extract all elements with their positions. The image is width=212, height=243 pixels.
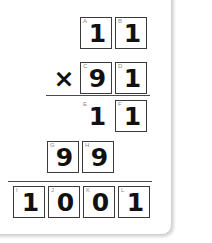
digit-cell-c[interactable]: C 9 bbox=[80, 62, 112, 94]
digit-cell-l[interactable]: L 1 bbox=[118, 186, 150, 218]
digit-cell-b[interactable]: B 1 bbox=[115, 17, 147, 49]
digit-cell-i[interactable]: I 1 bbox=[13, 186, 45, 218]
cell-digit-c: 9 bbox=[81, 63, 111, 93]
rule-lower bbox=[8, 181, 152, 182]
cell-digit-d: 1 bbox=[116, 63, 146, 93]
long-multiplication-problem: A 1 B 1 × C 9 D 1 E 1 bbox=[0, 0, 212, 243]
row-partial-product-1: E 1 F 1 bbox=[80, 100, 150, 132]
cell-digit-e: 1 bbox=[81, 101, 111, 131]
row-multiplier: × C 9 D 1 bbox=[50, 62, 150, 94]
digit-cell-j[interactable]: J 0 bbox=[48, 186, 80, 218]
row-multiplicand: A 1 B 1 bbox=[80, 17, 150, 49]
digit-cell-k[interactable]: K 0 bbox=[83, 186, 115, 218]
multiplication-worksheet: A 1 B 1 × C 9 D 1 E 1 bbox=[0, 0, 212, 243]
cell-digit-k: 0 bbox=[84, 187, 114, 217]
digit-cell-h[interactable]: H 9 bbox=[82, 141, 114, 173]
cell-digit-j: 0 bbox=[49, 187, 79, 217]
cell-digit-g: 9 bbox=[48, 142, 78, 172]
cell-digit-a: 1 bbox=[81, 18, 111, 48]
multiplication-sign-icon: × bbox=[50, 62, 78, 94]
cell-digit-i: 1 bbox=[14, 187, 44, 217]
cell-digit-h: 9 bbox=[83, 142, 113, 172]
rule-upper bbox=[46, 95, 150, 96]
digit-cell-a[interactable]: A 1 bbox=[80, 17, 112, 49]
cell-digit-b: 1 bbox=[116, 18, 146, 48]
cell-digit-f: 1 bbox=[116, 101, 146, 131]
digit-cell-e[interactable]: E 1 bbox=[80, 100, 112, 132]
row-partial-product-2: G 9 H 9 bbox=[47, 141, 117, 173]
digit-cell-f[interactable]: F 1 bbox=[115, 100, 147, 132]
row-product: I 1 J 0 K 0 L 1 bbox=[13, 186, 153, 218]
digit-cell-g[interactable]: G 9 bbox=[47, 141, 79, 173]
digit-cell-d[interactable]: D 1 bbox=[115, 62, 147, 94]
cell-digit-l: 1 bbox=[119, 187, 149, 217]
